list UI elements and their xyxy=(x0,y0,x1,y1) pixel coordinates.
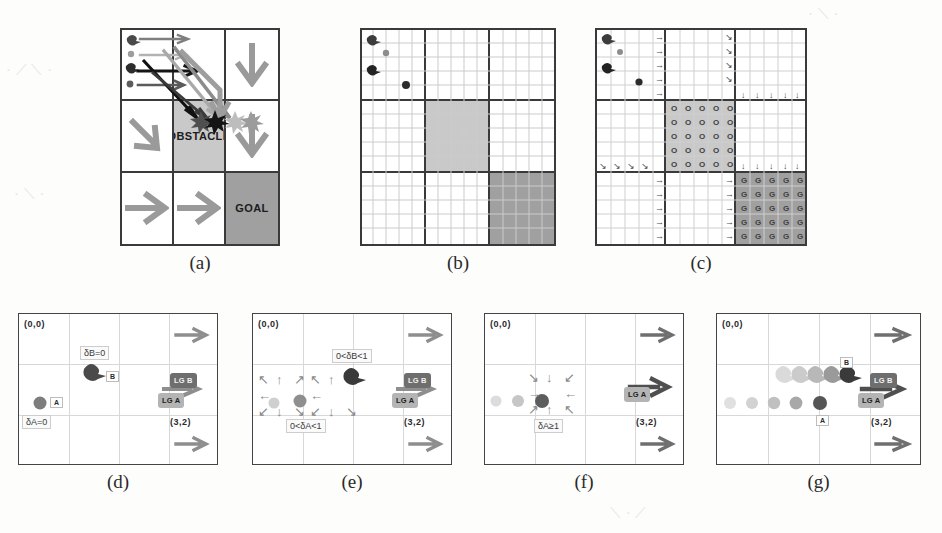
policy-arrow-right: → xyxy=(655,218,664,227)
goal-glyph: G xyxy=(769,233,775,241)
goal-glyph: G xyxy=(741,177,747,185)
goal-glyph: G xyxy=(783,177,789,185)
arrow-right-icon xyxy=(176,438,206,450)
agent-a-icon xyxy=(813,396,827,410)
agent-a-id: A xyxy=(816,415,829,426)
arrow-right-icon xyxy=(410,438,440,450)
dir-arrow-down: ↓ xyxy=(328,405,335,418)
goal-glyph: G xyxy=(755,233,761,241)
obstacle-glyph: O xyxy=(727,133,733,141)
dir-arrow-down: ↓ xyxy=(276,405,283,418)
policy-arrow-down: ↓ xyxy=(783,162,788,171)
panel-f: (0,0) (3,2) ↘ ↓ ↙ → ← ↗ ↑ ↖ δA≥1 LG A (f… xyxy=(484,313,684,465)
dir-arrow-up-left: ↖ xyxy=(310,373,321,386)
policy-arrow-right: → xyxy=(655,190,664,199)
goal-glyph: G xyxy=(769,177,775,185)
obstacle-glyph: O xyxy=(685,161,691,169)
dir-arrow-right: → xyxy=(294,389,307,402)
goal-glyph: G xyxy=(741,233,747,241)
policy-arrow-right: → xyxy=(655,47,664,56)
caption-b: (b) xyxy=(360,252,556,274)
lg-b-badge: LG B xyxy=(170,373,197,388)
lg-b-badge: LG B xyxy=(404,373,431,388)
bleed-text: · ⟋ ⟍ · xyxy=(6,62,53,79)
agent-icon xyxy=(383,50,389,56)
obstacle-glyph: O xyxy=(713,161,719,169)
caption-d: (d) xyxy=(18,471,218,493)
caption-g: (g) xyxy=(716,471,921,493)
bleed-text: · ⟍ · xyxy=(808,6,839,23)
dir-arrow-down-left: ↙ xyxy=(310,405,321,418)
dir-arrow-left: ← xyxy=(564,387,577,400)
panel-d: (0,0) (3,2) δB=0 B A δA=0 LG B LG A (d) xyxy=(18,313,218,465)
arrow-right-icon xyxy=(876,329,908,341)
arrow-right-icon xyxy=(642,329,672,341)
policy-arrow-down-right: ↘ xyxy=(725,75,733,84)
goal-glyph: G xyxy=(797,205,803,213)
dir-arrow-up: ↑ xyxy=(546,403,553,416)
agent-icon xyxy=(367,35,381,46)
agent-a-trail xyxy=(746,397,758,409)
dir-arrow-up-left: ↖ xyxy=(564,403,575,416)
goal-glyph: G xyxy=(741,205,747,213)
panel-e-overlay xyxy=(252,313,452,465)
goal-glyph: G xyxy=(783,191,789,199)
obstacle-glyph: O xyxy=(713,133,719,141)
obstacle-glyph: O xyxy=(685,147,691,155)
obstacle-glyph: O xyxy=(671,105,677,113)
panel-d-overlay xyxy=(18,313,218,465)
obstacle-glyph: O xyxy=(685,119,691,127)
agent-b-id: B xyxy=(106,371,119,382)
obstacle-marker-grid: OOOOO OOOOO OOOOO OOOOO OOOOO xyxy=(667,102,737,172)
goal-glyph: G xyxy=(783,205,789,213)
caption-a: (a) xyxy=(120,252,280,274)
panel-g-overlay xyxy=(716,313,921,465)
dir-arrow-down-right: ↘ xyxy=(528,371,539,384)
lg-a-badge: LG A xyxy=(158,393,184,408)
policy-arrow-right: → xyxy=(655,75,664,84)
caption-f: (f) xyxy=(484,471,684,493)
panel-c: → → → → → ↘ ↘ ↘ ↘ ↓ ↓ ↓ ↓ ↓ ↘ ↘ ↘ ↘ ↓ ↓ … xyxy=(595,28,807,246)
panel-b: (b) xyxy=(360,28,556,246)
obstacle-glyph: O xyxy=(699,133,705,141)
policy-arrow-down-right: ↘ xyxy=(725,47,733,56)
policy-arrow-right: → xyxy=(725,204,734,213)
delta-a-label: δA=0 xyxy=(22,415,51,429)
obstacle-glyph: O xyxy=(685,133,691,141)
panel-a: OBSTACLE GOAL xyxy=(120,28,280,246)
policy-arrow-right: → xyxy=(655,176,664,185)
agent-b-icon xyxy=(343,368,366,385)
obstacle-glyph: O xyxy=(727,147,733,155)
policy-arrow-right: → xyxy=(655,61,664,70)
dir-arrow-left: ← xyxy=(310,389,323,402)
delta-a-label: 0<δA<1 xyxy=(286,419,326,433)
agent-a-trail xyxy=(790,397,803,410)
caption-c: (c) xyxy=(595,252,807,274)
delta-b-label: 0<δB<1 xyxy=(332,349,372,363)
goal-glyph: G xyxy=(797,233,803,241)
policy-arrow-down-right: ↘ xyxy=(725,33,733,42)
policy-arrow-down-right: ↘ xyxy=(627,162,635,171)
obstacle-glyph: O xyxy=(727,105,733,113)
obstacle-glyph: O xyxy=(699,147,705,155)
lg-a-badge: LG A xyxy=(392,393,418,408)
obstacle-glyph: O xyxy=(671,119,677,127)
agent-a-trail xyxy=(768,397,780,409)
dir-arrow-up: ↑ xyxy=(328,373,335,386)
dir-arrow-down-right: ↘ xyxy=(294,405,305,418)
goal-glyph: G xyxy=(783,233,789,241)
delta-a-label: δA≥1 xyxy=(534,419,563,433)
obstacle-glyph: O xyxy=(699,105,705,113)
policy-arrow-down: ↓ xyxy=(755,162,760,171)
dir-arrow-down-right: ↘ xyxy=(346,405,357,418)
policy-arrow-right: → xyxy=(725,218,734,227)
bleed-text: · ⟍ · xyxy=(14,186,45,203)
dir-arrow-down-left: ↙ xyxy=(564,371,575,384)
goal-glyph: G xyxy=(741,219,747,227)
agent-icon xyxy=(617,49,623,55)
policy-arrow-down: ↓ xyxy=(769,91,774,100)
agent-a-trail xyxy=(491,396,502,407)
goal-glyph: G xyxy=(797,219,803,227)
arrow-right-icon xyxy=(876,438,908,450)
obstacle-glyph: O xyxy=(699,119,705,127)
